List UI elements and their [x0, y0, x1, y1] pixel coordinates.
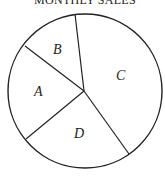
slice-label-b: B — [53, 42, 62, 57]
pie-outline — [8, 14, 162, 168]
slice-label-d: D — [73, 126, 84, 141]
pie-chart: A B C D — [0, 0, 165, 176]
slice-label-a: A — [33, 84, 43, 99]
slice-label-c: C — [116, 68, 126, 83]
